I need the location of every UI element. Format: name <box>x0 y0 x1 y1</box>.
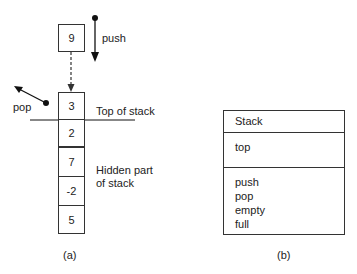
stack-cell: 2 <box>58 119 85 147</box>
stack-class-box: Stack top push pop empty full <box>223 110 345 235</box>
stack-cell: -2 <box>58 176 85 206</box>
stack-value: 5 <box>68 214 74 226</box>
pop-label: pop <box>13 101 31 113</box>
caption-a: (a) <box>63 249 76 261</box>
stack-value: 2 <box>68 127 74 139</box>
hidden-part-label-line1: Hidden part <box>96 164 153 176</box>
caption-b: (b) <box>277 249 290 261</box>
push-label: push <box>102 32 126 44</box>
stack-value: -2 <box>67 185 77 197</box>
class-name: Stack <box>235 115 263 127</box>
stack-cell: 5 <box>58 205 85 234</box>
top-of-stack-label: Top of stack <box>96 105 155 117</box>
hidden-part-label-line2: of stack <box>96 177 134 189</box>
operations-section: push pop empty full <box>224 168 344 231</box>
stack-value: 7 <box>68 156 74 168</box>
dashed-arrow-icon <box>68 84 75 92</box>
stack-cell: 7 <box>58 147 85 177</box>
incoming-element-box: 9 <box>58 24 85 52</box>
operation-full: full <box>235 217 344 231</box>
operation-empty: empty <box>235 203 344 217</box>
operation-pop: pop <box>235 189 344 203</box>
stack-value: 3 <box>68 100 74 112</box>
attribute-top: top <box>235 141 250 153</box>
push-arrow-icon <box>91 52 99 62</box>
class-name-section: Stack <box>224 111 344 133</box>
pop-arrow-icon <box>14 86 23 93</box>
operation-push: push <box>235 175 344 189</box>
attributes-section: top <box>224 133 344 168</box>
incoming-value: 9 <box>68 32 74 44</box>
stack-cell: 3 <box>58 92 85 120</box>
